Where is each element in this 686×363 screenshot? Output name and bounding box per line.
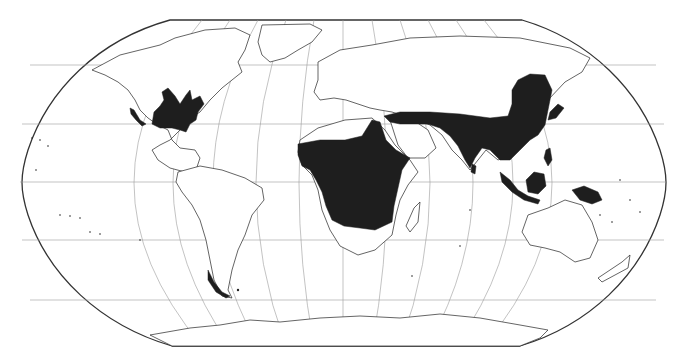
- world-distribution-map: [0, 0, 686, 363]
- range-sri-lanka: [471, 164, 476, 174]
